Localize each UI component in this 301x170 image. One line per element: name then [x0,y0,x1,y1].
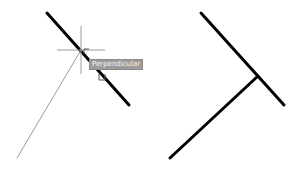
drawing-canvas[interactable] [0,0,301,170]
rubber-band-line [17,50,81,158]
result-perpendicular-line[interactable] [170,76,258,158]
snap-tooltip: Perpendicular [89,59,143,70]
tooltip-label: Perpendicular [92,60,140,68]
